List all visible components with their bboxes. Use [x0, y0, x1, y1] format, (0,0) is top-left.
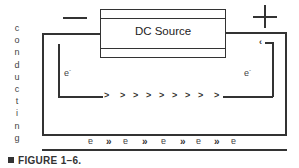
electron: e-: [88, 136, 90, 147]
chevron-right-icon: >: [198, 90, 203, 100]
letter: i: [16, 107, 18, 119]
dc-source-box: DC Source: [100, 9, 226, 58]
chevron-right-icon: >: [185, 90, 190, 100]
letter: c: [15, 22, 20, 34]
letter: n: [14, 120, 19, 132]
conductor-bottom-line: [42, 149, 287, 151]
figure-caption: FIGURE 1–6.: [8, 155, 81, 166]
double-chevron-icon: »: [180, 136, 185, 147]
letter: t: [16, 95, 19, 107]
minus-sign-icon: [63, 17, 87, 19]
double-chevron-icon: »: [106, 136, 111, 147]
chevron-right-icon: >: [146, 90, 151, 100]
chevron-right-icon: >: [104, 90, 109, 100]
letter: u: [14, 71, 19, 83]
chevron-right-icon: >: [133, 90, 138, 100]
dc-source-label: DC Source: [101, 25, 225, 37]
square-bullet-icon: [8, 157, 14, 163]
electron: e-: [161, 136, 163, 147]
arrow-left-icon: ‹: [259, 37, 262, 47]
electron: e-: [123, 136, 125, 147]
electron: e-: [196, 136, 198, 147]
chevron-right-icon: >: [120, 90, 125, 100]
conducting-vertical-label: c o n d u c t i n g: [11, 22, 23, 144]
chevron-right-icon: >: [214, 90, 219, 100]
letter: c: [15, 83, 20, 95]
double-chevron-icon: »: [142, 136, 147, 147]
electron-label-left: e-: [64, 68, 71, 78]
chevron-right-icon: >: [159, 90, 164, 100]
double-chevron-icon: »: [214, 136, 219, 147]
electron: e-: [231, 136, 233, 147]
conductor-electron-row: e- » e- » e- » e- » e-: [0, 136, 299, 148]
letter: o: [14, 34, 19, 46]
letter: n: [14, 46, 19, 58]
chevron-right-icon: >: [172, 90, 177, 100]
letter: d: [14, 59, 19, 71]
electron-label-right: e-: [244, 68, 251, 78]
